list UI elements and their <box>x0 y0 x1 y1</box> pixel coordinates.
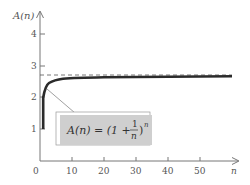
formula-numerator: 1 <box>132 119 138 129</box>
y-tick-label-2: 2 <box>31 92 37 102</box>
formula-lhs: A(n) = (1 + <box>66 124 131 137</box>
y-tick-label-3: 3 <box>31 61 37 71</box>
x-tick-label-10: 10 <box>66 166 78 176</box>
x-axis-label: n <box>231 166 237 176</box>
formula-denominator: n <box>131 131 137 141</box>
x-tick-label-40: 40 <box>162 166 174 176</box>
formula-exponent: n <box>144 121 149 129</box>
y-tick-label-1: 1 <box>31 124 37 134</box>
x-tick-label-50: 50 <box>194 166 206 176</box>
x-tick-label-20: 20 <box>98 166 110 176</box>
formula-close-paren: ) <box>139 124 143 137</box>
y-axis-label: A(n) <box>12 10 35 21</box>
origin-label: 0 <box>33 166 39 176</box>
annotation-pointer <box>47 89 75 113</box>
chart: A(n) 4 3 2 1 0 10 20 30 40 50 n A(n) = (… <box>0 0 250 185</box>
x-ticks <box>72 157 200 161</box>
x-tick-label-30: 30 <box>130 166 142 176</box>
y-tick-label-4: 4 <box>31 29 37 39</box>
